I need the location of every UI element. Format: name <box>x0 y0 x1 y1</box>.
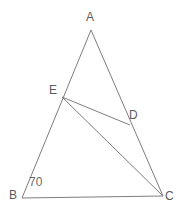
angle-label-b: 70 <box>29 176 42 188</box>
segment-ED <box>62 97 130 125</box>
segment-BC <box>22 196 163 198</box>
segment-EC <box>62 97 163 196</box>
vertex-label-d: D <box>129 109 138 121</box>
vertex-label-e: E <box>49 84 57 96</box>
vertex-label-a: A <box>86 11 94 23</box>
vertex-label-b: B <box>9 189 17 201</box>
geometry-figure: A B C D E 70 <box>0 0 180 215</box>
vertex-label-c: C <box>165 190 174 202</box>
segment-AB <box>22 30 91 198</box>
geometry-canvas <box>0 0 180 215</box>
